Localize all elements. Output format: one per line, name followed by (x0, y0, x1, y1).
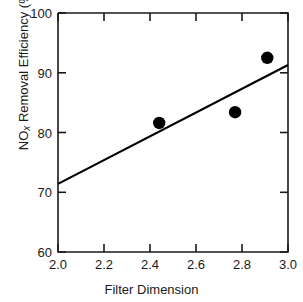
x-tick-label-2-4: 2.4 (141, 258, 159, 271)
x-tick-label-2-0: 2.0 (49, 258, 67, 271)
axis-frame (58, 13, 288, 252)
data-point (153, 117, 165, 129)
x-axis-ticks (58, 13, 288, 252)
y-axis-title: NOx Removal Efficiency (%) (16, 0, 32, 159)
y-axis-title-suffix: Removal Efficiency (%) (16, 0, 31, 126)
x-axis-title: Filter Dimension (0, 282, 303, 297)
x-tick-label-3-0: 3.0 (279, 258, 297, 271)
data-points (153, 52, 273, 130)
x-tick-label-2-2: 2.2 (95, 258, 113, 271)
data-point (229, 106, 241, 118)
trend-line (58, 65, 288, 184)
y-tick-label-60: 60 (10, 246, 52, 259)
y-tick-label-70: 70 (10, 186, 52, 199)
chart-figure: 100 90 80 70 60 2.0 2.2 2.4 2.6 2.8 3.0 … (0, 0, 303, 302)
x-tick-label-2-6: 2.6 (187, 258, 205, 271)
y-axis-title-prefix: NO (16, 131, 31, 151)
y-axis-title-subscript: x (21, 126, 32, 131)
data-point (261, 52, 273, 64)
y-axis-ticks (58, 13, 288, 252)
x-tick-label-2-8: 2.8 (233, 258, 251, 271)
